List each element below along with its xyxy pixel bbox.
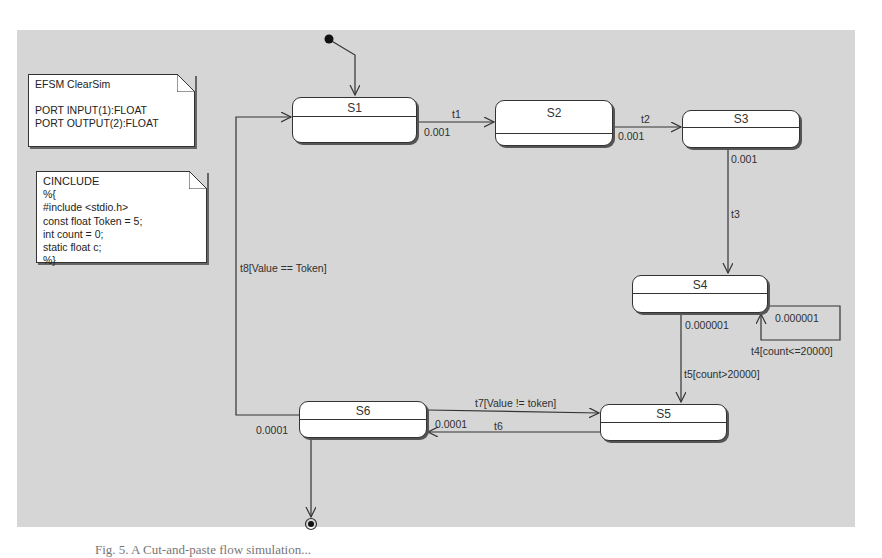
transition-delay-t3: 0.001 <box>731 153 757 165</box>
state-name: S1 <box>293 101 416 115</box>
state-s1[interactable]: S1 <box>292 97 417 143</box>
note-line: PORT OUTPUT(2):FLOAT <box>35 117 188 130</box>
state-divider <box>300 419 426 420</box>
state-name: S5 <box>601 407 726 421</box>
transition-label-t5[interactable]: t5[count>20000] <box>684 368 760 380</box>
initial-state-icon <box>325 35 334 44</box>
transition-label-t3[interactable]: t3 <box>731 208 740 220</box>
state-divider <box>293 116 416 117</box>
state-divider <box>633 293 767 294</box>
note-fold-icon <box>189 171 207 189</box>
state-s3[interactable]: S3 <box>682 110 800 148</box>
note-line: const float Token = 5; <box>43 215 200 228</box>
transition-delay-t8: 0.0001 <box>256 424 288 436</box>
transition-label-t8[interactable]: t8[Value == Token] <box>240 262 327 274</box>
figure-caption: Fig. 5. A Cut-and-paste flow simulation.… <box>95 542 311 558</box>
state-name: S2 <box>496 106 612 120</box>
note-cinclude[interactable]: CINCLUDE %{ #include <stdio.h> const flo… <box>36 171 207 263</box>
note-line: static float c; <box>43 241 200 254</box>
transition-label-t4[interactable]: t4[count<=20000] <box>751 345 833 357</box>
state-s5[interactable]: S5 <box>600 404 727 441</box>
state-name: S3 <box>683 112 799 126</box>
note-line: int count = 0; <box>43 228 200 241</box>
transition-label-t2[interactable]: t2 <box>641 113 650 125</box>
note-efsm-header[interactable]: EFSM ClearSim PORT INPUT(1):FLOAT PORT O… <box>28 74 195 147</box>
state-s6[interactable]: S6 <box>299 401 427 438</box>
state-name: S6 <box>300 404 426 418</box>
transition-delay-t4: 0.000001 <box>775 312 819 324</box>
transition-delay-t6: 0.0001 <box>435 418 467 430</box>
note-line <box>35 91 188 104</box>
note-line: %} <box>43 254 200 267</box>
note-fold-icon <box>177 74 195 92</box>
state-name: S4 <box>633 278 767 292</box>
transition-label-t6[interactable]: t6 <box>494 420 503 432</box>
transition-delay-t5: 0.000001 <box>685 319 729 331</box>
transition-delay-t2: 0.001 <box>618 130 644 142</box>
note-line: #include <stdio.h> <box>43 201 200 214</box>
note-line: %{ <box>43 188 200 201</box>
transition-label-t7[interactable]: t7[Value != token] <box>475 397 556 409</box>
state-s4[interactable]: S4 <box>632 275 768 313</box>
wire-t7 <box>427 410 599 413</box>
initial-transition <box>330 40 355 95</box>
state-s2[interactable]: S2 <box>495 100 613 146</box>
transition-label-t1[interactable]: t1 <box>452 108 461 120</box>
note-line: PORT INPUT(1):FLOAT <box>35 104 188 117</box>
state-divider <box>601 422 726 423</box>
state-divider <box>496 133 612 134</box>
note-line: CINCLUDE <box>43 175 200 188</box>
final-state-icon <box>306 519 317 530</box>
state-divider <box>683 127 799 128</box>
note-line: EFSM ClearSim <box>35 78 188 91</box>
transition-delay-t1: 0.001 <box>424 126 450 138</box>
